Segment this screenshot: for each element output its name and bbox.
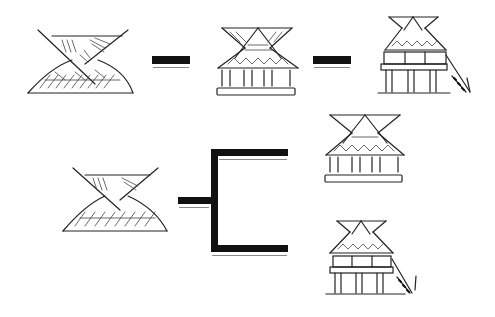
connector-dash-1-shadow xyxy=(153,67,189,68)
branch-vertical xyxy=(211,149,218,252)
connector-dash-2-shadow xyxy=(314,67,350,68)
branch-top-arm xyxy=(211,149,288,156)
connector-dash-1 xyxy=(152,56,190,64)
connector-dash-2 xyxy=(313,56,351,64)
branch-stub-shadow xyxy=(179,207,209,208)
branch-top-shadow xyxy=(219,159,287,160)
branch-bottom-shadow xyxy=(212,255,287,256)
branch-bottom-arm xyxy=(211,245,288,252)
branch-stub xyxy=(178,197,214,204)
